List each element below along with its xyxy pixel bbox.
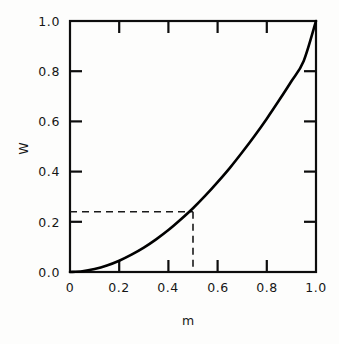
x-tick-label-0.2: 0.2 <box>99 280 139 295</box>
x-axis-title: m <box>173 313 203 328</box>
y-axis-ticks-left <box>70 71 82 222</box>
x-axis-ticks-top <box>119 21 267 33</box>
y-tick-label-0.2: 0.2 <box>8 215 60 230</box>
y-tick-label-0.4: 0.4 <box>8 164 60 179</box>
y-tick-label-0.0: 0.0 <box>8 265 60 280</box>
plot-frame <box>70 21 316 272</box>
y-axis-ticks-right <box>304 71 316 222</box>
data-curve <box>70 21 316 272</box>
x-tick-label-0.4: 0.4 <box>148 280 188 295</box>
chart-figure: 1.0 0.8 0.6 0.4 0.2 0.0 0 0.2 0.4 0.6 0.… <box>0 0 339 344</box>
x-tick-label-0.6: 0.6 <box>198 280 238 295</box>
y-tick-label-1.0: 1.0 <box>8 14 60 29</box>
y-axis-title: W <box>16 138 31 160</box>
x-tick-label-1.0: 1.0 <box>296 280 336 295</box>
y-tick-label-0.6: 0.6 <box>8 114 60 129</box>
y-tick-label-0.8: 0.8 <box>8 64 60 79</box>
x-tick-label-0.8: 0.8 <box>247 280 287 295</box>
x-tick-label-0: 0 <box>50 280 90 295</box>
